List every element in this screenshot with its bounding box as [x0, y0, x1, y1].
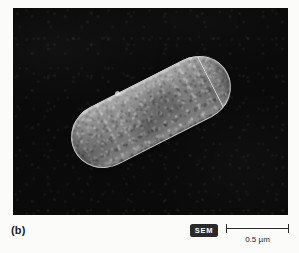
scale-bar: 0.5 µm [226, 223, 289, 249]
scale-bar-line [226, 228, 289, 229]
sem-mode-badge: SEM [190, 224, 218, 237]
figure-caption-row: (b) SEM 0.5 µm [0, 215, 299, 253]
scale-bar-label: 0.5 µm [226, 235, 289, 244]
micrograph-panel [13, 8, 288, 215]
scale-bar-cap-left [226, 224, 227, 233]
scale-bar-cap-right [288, 224, 289, 233]
sem-micrograph-figure: (b) SEM 0.5 µm [0, 0, 299, 253]
panel-label: (b) [11, 224, 26, 236]
